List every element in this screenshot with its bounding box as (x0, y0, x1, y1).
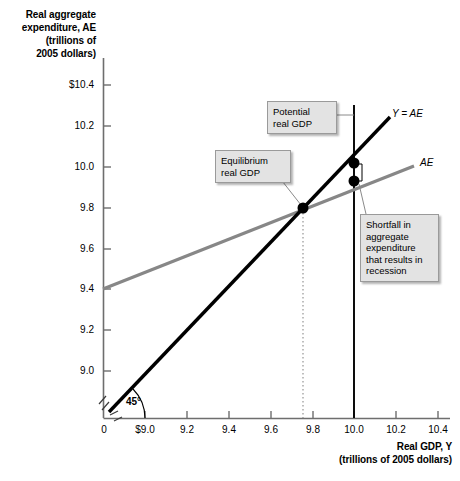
callout-equilibrium-real-gdp: Equilibrium real GDP (215, 150, 291, 183)
callout-potential-real-gdp: Potential real GDP (267, 101, 337, 134)
chart-canvas: Real aggregate expenditure, AE (trillion… (0, 0, 460, 481)
y-tick-label-9-4: 9.4 (48, 283, 94, 294)
x-tick-label-9-0: $9.0 (125, 424, 165, 435)
angle-label: 45° (126, 396, 141, 407)
data-point-equilibrium (298, 203, 309, 214)
y-tick-label-9-8: 9.8 (48, 202, 94, 213)
x-tick-label-9-8: 9.8 (293, 424, 333, 435)
data-point-ae-at-potential (349, 176, 360, 187)
x-axis-title: Real GDP, Y (trillions of 2005 dollars) (250, 440, 452, 466)
y-tick-label-10-0: 10.0 (48, 161, 94, 172)
y-axis-ticks (104, 85, 112, 371)
curve-label-y-equals-ae: Y = AE (392, 108, 423, 119)
x-tick-label-10-4: 10.4 (418, 424, 458, 435)
x-tick-label-9-4: 9.4 (209, 424, 249, 435)
x-tick-label-9-2: 9.2 (167, 424, 207, 435)
x-tick-label-9-6: 9.6 (251, 424, 291, 435)
y-tick-label-10-4: $10.4 (48, 79, 94, 90)
x-tick-label-10-2: 10.2 (376, 424, 416, 435)
x-tick-label-0: 0 (84, 424, 124, 435)
callout-shortfall: Shortfall in aggregate expenditure that … (360, 214, 439, 282)
y-tick-label-9-6: 9.6 (48, 243, 94, 254)
y-tick-label-10-2: 10.2 (48, 120, 94, 131)
x-tick-label-10-0: 10.0 (334, 424, 374, 435)
y-tick-label-9-2: 9.2 (48, 324, 94, 335)
y-axis-title: Real aggregate expenditure, AE (trillion… (8, 8, 96, 60)
curve-label-ae: AE (420, 157, 433, 168)
y-tick-label-9-0: 9.0 (48, 365, 94, 376)
leader-line-shortfall (359, 184, 366, 214)
x-axis-ticks (145, 411, 438, 419)
data-point-potential-on-45 (349, 158, 360, 169)
